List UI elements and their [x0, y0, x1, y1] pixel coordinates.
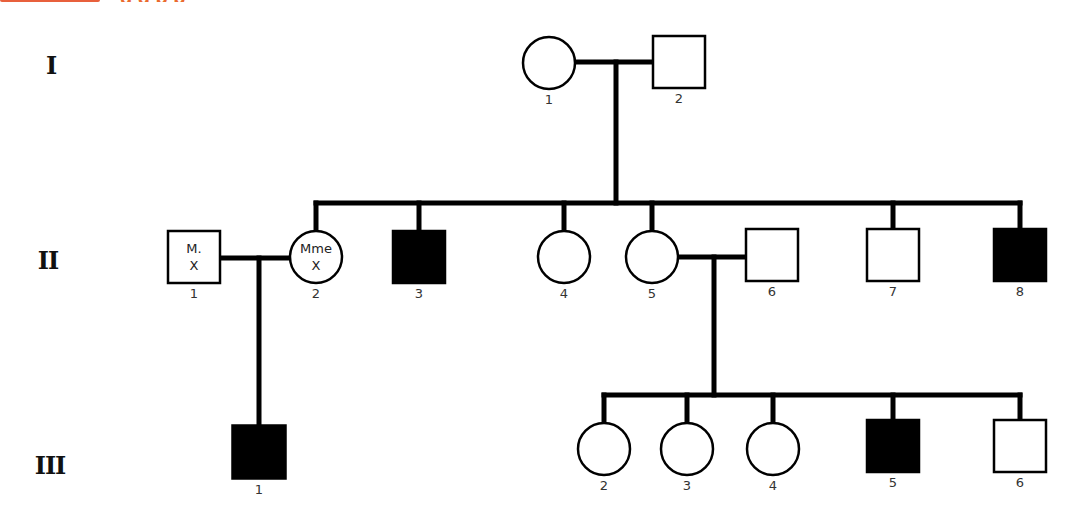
individual-III-3: 3 — [661, 423, 713, 493]
individual-number: 3 — [683, 478, 691, 493]
individual-II-6: 6 — [746, 229, 798, 299]
affected-male-square-icon — [393, 231, 445, 283]
male-square-icon — [867, 229, 919, 281]
individual-II-7: 7 — [867, 229, 919, 299]
female-circle-icon — [523, 37, 575, 89]
individual-I-2: 2 — [653, 36, 705, 106]
individual-number: 7 — [889, 284, 897, 299]
individual-number: 2 — [312, 286, 320, 301]
individual-II-2: MmeX2 — [290, 231, 342, 301]
male-square-icon — [653, 36, 705, 88]
individual-number: 6 — [768, 284, 776, 299]
affected-male-square-icon — [994, 229, 1046, 281]
affected-male-square-icon — [233, 426, 286, 479]
individual-II-4: 4 — [538, 231, 590, 301]
individual-number: 1 — [255, 482, 263, 497]
individual-number: 3 — [415, 286, 423, 301]
individual-number: 4 — [560, 286, 568, 301]
individual-II-1: M.X1 — [168, 231, 220, 301]
individual-number: 4 — [769, 478, 777, 493]
individual-number: 1 — [545, 92, 553, 107]
female-circle-icon — [626, 231, 678, 283]
individual-III-4: 4 — [747, 423, 799, 493]
individual-III-2: 2 — [578, 423, 630, 493]
individual-number: 8 — [1016, 284, 1024, 299]
individual-name-text: M. — [186, 241, 201, 256]
male-square-icon — [746, 229, 798, 281]
individual-number: 1 — [190, 286, 198, 301]
individual-number: 2 — [600, 478, 608, 493]
individual-number: 6 — [1016, 475, 1024, 490]
individual-number: 5 — [648, 286, 656, 301]
individual-II-5: 5 — [626, 231, 678, 301]
female-circle-icon — [290, 231, 342, 283]
individual-number: 5 — [889, 475, 897, 490]
female-circle-icon — [578, 423, 630, 475]
individual-I-1: 1 — [523, 37, 575, 107]
female-circle-icon — [747, 423, 799, 475]
pedigree-chart: 12M.X1MmeX2345678123456 — [0, 0, 1070, 517]
individual-III-5: 5 — [867, 420, 919, 490]
pedigree-diagram: g g p p I II III 12M.X1MmeX2345678123456 — [0, 0, 1070, 517]
individual-III-1: 1 — [233, 426, 286, 497]
male-square-icon — [994, 420, 1046, 472]
individuals: 12M.X1MmeX2345678123456 — [168, 36, 1046, 497]
male-square-icon — [168, 231, 220, 283]
female-circle-icon — [538, 231, 590, 283]
female-circle-icon — [661, 423, 713, 475]
affected-male-square-icon — [867, 420, 919, 472]
individual-number: 2 — [675, 91, 683, 106]
individual-II-3: 3 — [393, 231, 445, 301]
individual-name-text: Mme — [300, 241, 332, 256]
individual-III-6: 6 — [994, 420, 1046, 490]
individual-name-text: X — [190, 258, 199, 273]
individual-II-8: 8 — [994, 229, 1046, 299]
individual-name-text: X — [312, 258, 321, 273]
